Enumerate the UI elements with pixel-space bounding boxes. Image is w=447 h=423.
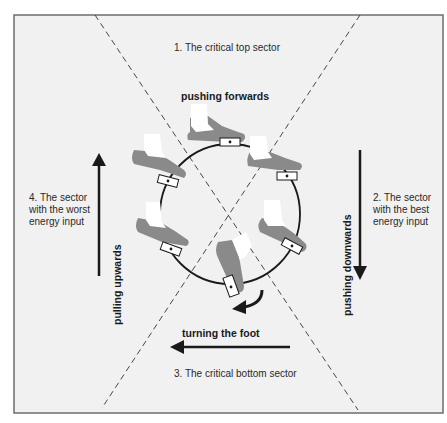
sector-right-label: 2. The sector with the best energy input [372, 192, 432, 227]
svg-text:with the best: with the best [372, 204, 429, 215]
action-left-label: pulling upwards [111, 244, 123, 325]
action-bottom-label: turning the foot [182, 327, 260, 339]
svg-text:2. The sector: 2. The sector [373, 192, 432, 203]
sector-left-label: 4. The sector with the worst energy inpu… [28, 192, 90, 227]
pedal-stroke-diagram: 1. The critical top sector pushing forwa… [0, 0, 447, 423]
svg-text:4. The sector: 4. The sector [29, 192, 88, 203]
svg-text:with the worst: with the worst [28, 204, 90, 215]
svg-text:energy input: energy input [29, 216, 84, 227]
sector-bottom-label: 3. The critical bottom sector [174, 368, 297, 379]
svg-text:energy input: energy input [373, 216, 428, 227]
action-right-label: pushing downwards [341, 214, 353, 316]
sector-top-label: 1. The critical top sector [174, 42, 281, 53]
action-top-label: pushing forwards [181, 90, 269, 102]
